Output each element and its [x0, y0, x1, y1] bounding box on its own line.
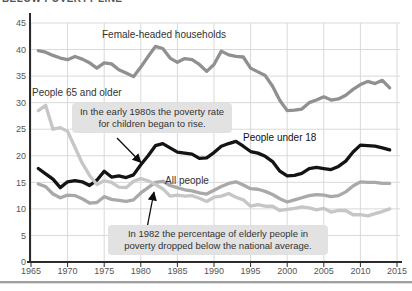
y-tick-label: 10: [16, 204, 26, 214]
x-tick-label: 1995: [241, 266, 261, 276]
annotation-arrows: [117, 138, 154, 228]
label-people-under-18: People under 18: [243, 132, 316, 143]
annotation-elderly-crossing: In 1982 the percentage of elderly people…: [108, 225, 328, 255]
y-tick-label: 15: [16, 178, 26, 188]
x-tick-label: 2015: [387, 266, 407, 276]
poverty-chart-figure: BELOW POVERTY LINE 051015202530354045196…: [0, 0, 412, 291]
arrow-elderly-crossing: [147, 192, 154, 228]
y-tick-label: 40: [16, 45, 26, 55]
y-tick-label: 25: [16, 124, 26, 134]
x-tick-label: 2000: [277, 266, 297, 276]
x-tick-label: 2005: [314, 266, 334, 276]
y-tick-label: 5: [21, 231, 26, 241]
x-tick-label: 1975: [94, 266, 114, 276]
x-tick-label: 1990: [204, 266, 224, 276]
x-tick-label: 1980: [131, 266, 151, 276]
label-people-65-and-older: People 65 and older: [32, 87, 122, 98]
x-tick-label: 1970: [58, 266, 78, 276]
x-tick-label: 1985: [167, 266, 187, 276]
y-tick-label: 20: [16, 151, 26, 161]
y-tick-label: 45: [16, 18, 26, 28]
arrow-children-rise: [117, 138, 141, 163]
label-female-headed-households: Female-headed households: [102, 29, 226, 40]
annotation-children-rise: In the early 1980s the poverty rate for …: [72, 103, 232, 133]
label-all-people: All people: [165, 175, 209, 186]
y-tick-label: 35: [16, 71, 26, 81]
x-tick-label: 1965: [21, 266, 41, 276]
y-tick-label: 30: [16, 98, 26, 108]
page-edge-line: [0, 281, 412, 284]
x-tick-label: 2010: [350, 266, 370, 276]
